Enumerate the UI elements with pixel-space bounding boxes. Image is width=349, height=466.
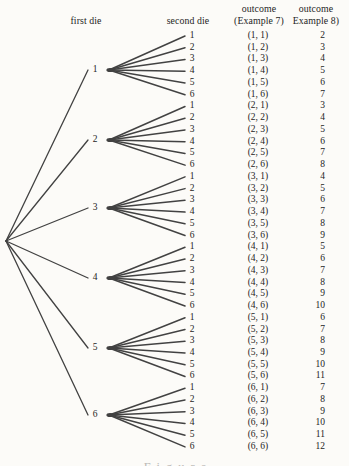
- second-die-label: 4: [190, 66, 195, 76]
- second-die-branch-line: [109, 70, 185, 95]
- sum-value: 6: [320, 196, 325, 206]
- sum-value: 5: [320, 184, 325, 194]
- outcome-pair: (2, 2): [248, 113, 269, 123]
- second-die-branch-line: [109, 189, 185, 208]
- second-die-label: 2: [190, 395, 195, 405]
- second-die-label: 3: [190, 196, 195, 206]
- second-die-branch-line: [109, 70, 185, 71]
- sum-value: 12: [316, 442, 326, 452]
- root-branch-line: [6, 208, 88, 241]
- sum-value: 8: [320, 395, 325, 405]
- tree-branch-lines: [0, 0, 349, 466]
- header-first-die: first die: [70, 16, 101, 26]
- outcome-pair: (3, 3): [248, 196, 269, 206]
- header-second-die: second die: [167, 16, 210, 26]
- outcome-pair: (1, 5): [248, 78, 269, 88]
- second-die-label: 4: [190, 207, 195, 217]
- sum-value: 9: [320, 231, 325, 241]
- sum-value: 10: [316, 360, 326, 370]
- second-die-label: 3: [190, 266, 195, 276]
- sum-value: 3: [320, 43, 325, 53]
- sum-value: 11: [316, 372, 325, 382]
- outcome-pair: (1, 6): [248, 90, 269, 100]
- outcome-pair: (4, 4): [248, 278, 269, 288]
- sum-value: 11: [316, 430, 325, 440]
- sum-value: 10: [316, 419, 326, 429]
- second-die-label: 3: [190, 336, 195, 346]
- outcome-pair: (6, 2): [248, 395, 269, 405]
- outcome-pair: (5, 4): [248, 348, 269, 358]
- first-die-node: 1: [93, 65, 98, 75]
- root-branch-line: [6, 241, 88, 278]
- sum-value: 8: [320, 160, 325, 170]
- first-die-node: 3: [93, 203, 98, 213]
- second-die-label: 5: [190, 430, 195, 440]
- sum-value: 6: [320, 254, 325, 264]
- second-die-label: 4: [190, 137, 195, 147]
- second-die-label: 5: [190, 360, 195, 370]
- sum-value: 7: [320, 90, 325, 100]
- second-die-branch-line: [109, 177, 185, 208]
- sum-value: 2: [320, 31, 325, 41]
- outcome-pair: (5, 1): [248, 313, 269, 323]
- outcome-pair: (3, 2): [248, 184, 269, 194]
- header-outcome-example8-line2: Example 8): [293, 16, 339, 26]
- sum-value: 5: [320, 243, 325, 253]
- sum-value: 7: [320, 325, 325, 335]
- second-die-label: 3: [190, 125, 195, 135]
- second-die-label: 4: [190, 419, 195, 429]
- second-die-label: 2: [190, 254, 195, 264]
- outcome-pair: (5, 2): [248, 325, 269, 335]
- sum-value: 8: [320, 278, 325, 288]
- header-outcome-example8-line1: outcome: [299, 4, 333, 14]
- sum-value: 6: [320, 137, 325, 147]
- second-die-branch-line: [109, 118, 185, 140]
- outcome-pair: (2, 1): [248, 102, 269, 112]
- sum-value: 9: [320, 407, 325, 417]
- sum-value: 7: [320, 207, 325, 217]
- second-die-label: 1: [190, 383, 195, 393]
- second-die-label: 2: [190, 43, 195, 53]
- sum-value: 6: [320, 78, 325, 88]
- sum-value: 5: [320, 66, 325, 76]
- second-die-label: 6: [190, 90, 195, 100]
- outcome-pair: (6, 6): [248, 442, 269, 452]
- second-die-branch-line: [109, 70, 185, 83]
- outcome-pair: (3, 6): [248, 231, 269, 241]
- header-outcome-example7-line1: outcome: [242, 4, 276, 14]
- sum-value: 8: [320, 219, 325, 229]
- second-die-label: 1: [190, 313, 195, 323]
- second-die-branch-line: [109, 48, 185, 70]
- outcome-pair: (2, 6): [248, 160, 269, 170]
- outcome-pair: (6, 3): [248, 407, 269, 417]
- dice-tree-diagram-page: first die second die outcome (Example 7)…: [0, 0, 349, 466]
- first-die-node: 5: [93, 343, 98, 353]
- second-die-label: 2: [190, 325, 195, 335]
- header-outcome-example7-line2: (Example 7): [234, 16, 284, 26]
- outcome-pair: (4, 3): [248, 266, 269, 276]
- outcome-pair: (6, 5): [248, 430, 269, 440]
- sum-value: 3: [320, 102, 325, 112]
- outcome-pair: (1, 2): [248, 43, 269, 53]
- second-die-label: 4: [190, 348, 195, 358]
- second-die-label: 2: [190, 113, 195, 123]
- second-die-label: 3: [190, 407, 195, 417]
- second-die-label: 2: [190, 184, 195, 194]
- second-die-label: 1: [190, 172, 195, 182]
- outcome-pair: (2, 3): [248, 125, 269, 135]
- second-die-label: 1: [190, 31, 195, 41]
- outcome-pair: (4, 6): [248, 301, 269, 311]
- outcome-pair: (4, 2): [248, 254, 269, 264]
- outcome-pair: (5, 3): [248, 336, 269, 346]
- sum-value: 7: [320, 383, 325, 393]
- second-die-label: 6: [190, 231, 195, 241]
- sum-value: 10: [316, 301, 326, 311]
- outcome-pair: (3, 5): [248, 219, 269, 229]
- second-die-label: 4: [190, 278, 195, 288]
- outcome-pair: (6, 4): [248, 419, 269, 429]
- outcome-pair: (1, 1): [248, 31, 269, 41]
- second-die-label: 5: [190, 78, 195, 88]
- second-die-label: 6: [190, 160, 195, 170]
- second-die-branch-line: [109, 140, 185, 165]
- sum-value: 4: [320, 172, 325, 182]
